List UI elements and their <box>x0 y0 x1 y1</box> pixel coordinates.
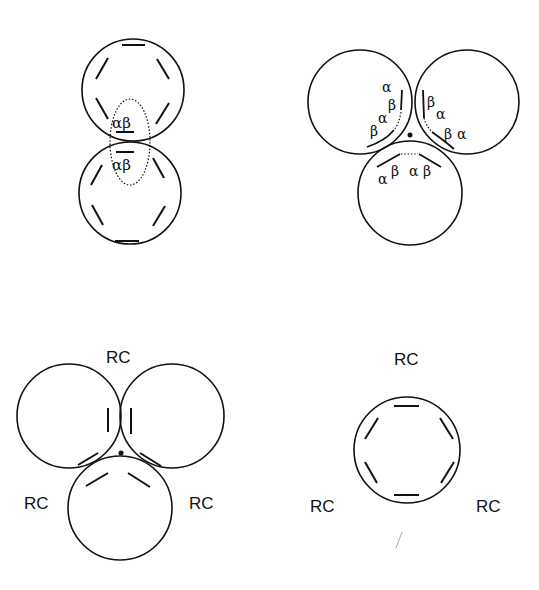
stray-mark <box>396 532 402 548</box>
left-ring <box>308 50 412 154</box>
alpha-beta-top: αβ <box>112 114 131 132</box>
rc-center-dot <box>119 451 124 456</box>
left-dotted <box>394 112 401 130</box>
right-alpha-1: α <box>436 106 446 122</box>
left-bond-upper <box>401 90 402 110</box>
rc-label-top: RC <box>106 348 131 367</box>
rc-right-ring <box>120 364 224 468</box>
alpha-beta-bottom: αβ <box>112 156 131 174</box>
bottom-alpha-1: α <box>378 171 388 187</box>
rc-label-left: RC <box>24 494 49 513</box>
rc-ring-panel: RC RC RC <box>310 350 501 548</box>
left-alpha-1: α <box>382 79 392 95</box>
rc-bottom-ring <box>68 456 172 560</box>
rc-single-label-left: RC <box>310 497 335 516</box>
rc-single-label-right: RC <box>476 497 501 516</box>
upper-ring-bonds <box>96 45 169 124</box>
rc-bottom-bond-left <box>86 473 108 486</box>
rc-single-label-top: RC <box>394 350 419 369</box>
rc-label-right: RC <box>189 494 214 513</box>
upper-ring <box>82 39 184 141</box>
right-beta-2: β <box>444 126 452 142</box>
bottom-ring <box>358 141 462 245</box>
rc-bottom-bond-right <box>128 473 150 487</box>
right-dotted <box>424 118 432 132</box>
rc-trimer-panel: RC RC RC <box>17 348 224 560</box>
right-bond-upper <box>423 90 424 118</box>
bottom-beta-2: β <box>423 163 431 179</box>
rc-left-ring <box>17 364 121 468</box>
left-beta-1: β <box>388 97 396 113</box>
diagram-canvas: αβ αβ α β α β β α β α α β α β <box>0 0 539 590</box>
rc-single-ring <box>354 397 460 503</box>
rc-single-ring-bonds <box>365 406 454 495</box>
trimer-panel: α β α β β α β α α β α β <box>308 50 519 245</box>
right-alpha-2: α <box>457 126 467 142</box>
dimer-panel: αβ αβ <box>79 39 184 244</box>
right-beta-1: β <box>427 94 435 110</box>
center-dot <box>408 133 413 138</box>
bottom-beta-1: β <box>391 163 399 179</box>
left-alpha-2: α <box>378 110 388 126</box>
bottom-alpha-2: α <box>409 163 419 179</box>
left-beta-2: β <box>370 123 378 139</box>
